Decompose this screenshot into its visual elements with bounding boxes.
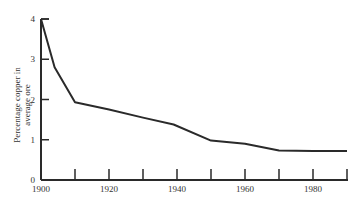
x-axis: 19001920194019601980: [32, 169, 348, 194]
x-tick-label: 1920: [100, 184, 119, 194]
y-axis-label: Percentage copper inaverage ore: [12, 67, 32, 143]
x-tick-label: 1960: [236, 184, 255, 194]
y-axis-title: Percentage copper inaverage ore: [12, 67, 32, 143]
y-tick-label: 1: [31, 135, 36, 145]
x-tick-label: 1940: [168, 184, 187, 194]
data-series: [41, 19, 347, 151]
x-tick-label: 1980: [304, 184, 323, 194]
y-tick-label: 3: [31, 54, 36, 64]
series-line: [41, 19, 347, 151]
y-tick-label: 4: [31, 14, 36, 24]
chart: 01234 19001920194019601980 Percentage co…: [0, 0, 362, 204]
x-tick-label: 1900: [32, 184, 51, 194]
